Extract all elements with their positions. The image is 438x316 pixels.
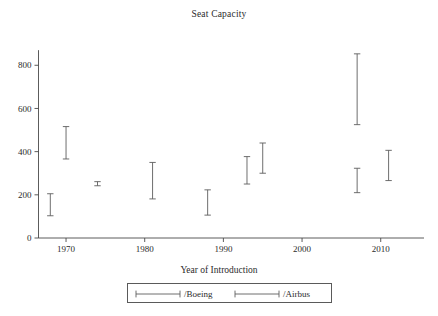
data-spike <box>354 54 360 125</box>
data-spike <box>149 162 155 198</box>
x-tick-label: 2010 <box>372 244 391 254</box>
data-spike <box>260 143 266 173</box>
legend-marker-boeing <box>134 289 182 299</box>
legend-label-airbus: /Airbus <box>283 289 310 299</box>
y-tick-label: 800 <box>18 60 32 70</box>
data-spikes <box>47 54 392 216</box>
axes <box>39 50 425 238</box>
legend-label-boeing: /Boeing <box>184 289 213 299</box>
data-spike <box>94 182 100 186</box>
data-spike <box>204 190 210 215</box>
x-tick-label: 1970 <box>57 244 76 254</box>
legend-entry-boeing[interactable]: /Boeing <box>134 284 213 304</box>
x-axis-title: Year of Introduction <box>180 265 257 275</box>
data-spike <box>244 157 250 184</box>
x-tick-label: 1980 <box>136 244 155 254</box>
legend-marker-airbus <box>233 289 281 299</box>
x-tick-label: 1990 <box>214 244 233 254</box>
legend: /Boeing /Airbus <box>127 283 332 303</box>
chart-page: Seat Capacity 0200400600800 197019801990… <box>0 0 438 316</box>
legend-entry-airbus[interactable]: /Airbus <box>233 284 310 304</box>
y-tick-label: 0 <box>27 233 32 243</box>
data-spike <box>47 194 53 216</box>
x-axis-ticks: 19701980199020002010 <box>57 238 390 254</box>
data-spike <box>385 150 391 180</box>
y-axis-ticks: 0200400600800 <box>18 60 39 243</box>
data-spike <box>354 168 360 192</box>
y-tick-label: 600 <box>18 104 32 114</box>
y-tick-label: 200 <box>18 190 32 200</box>
data-spike <box>63 127 69 159</box>
plot-area: 0200400600800 19701980199020002010 Year … <box>0 0 438 316</box>
y-tick-label: 400 <box>18 147 32 157</box>
x-tick-label: 2000 <box>293 244 312 254</box>
